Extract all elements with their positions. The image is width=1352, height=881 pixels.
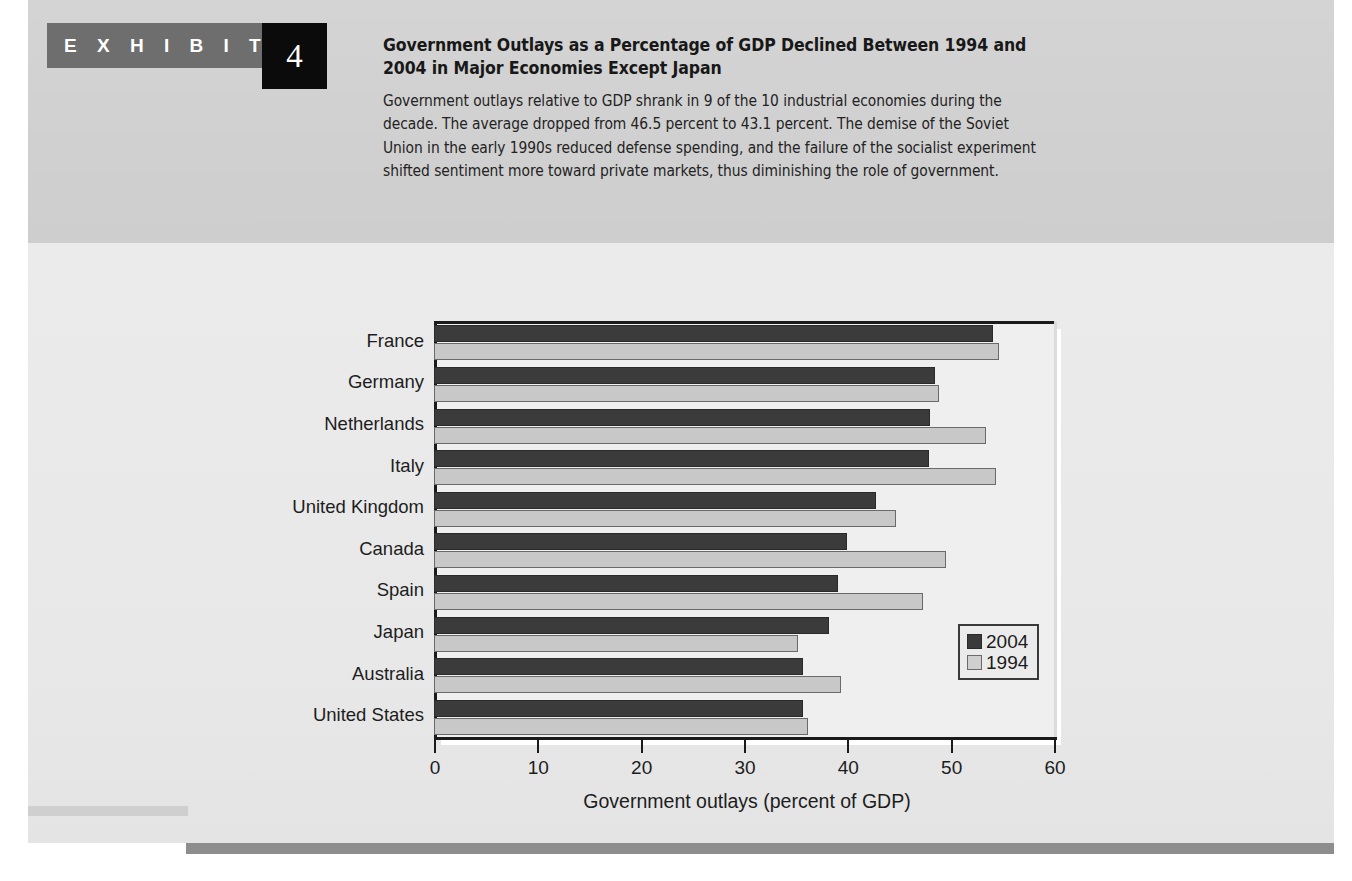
category-label-australia: Australia xyxy=(352,663,424,685)
exhibit-ribbon: E X H I B I T xyxy=(47,23,262,68)
footer-bar xyxy=(186,843,1334,854)
legend-swatch-2004-icon xyxy=(967,634,982,649)
plot-top-border xyxy=(434,321,1054,324)
bar-japan-2004 xyxy=(434,617,829,634)
x-tick-mark-0 xyxy=(434,740,436,753)
category-label-italy: Italy xyxy=(390,455,424,477)
bar-germany-1994 xyxy=(434,385,939,402)
exhibit-label: E X H I B I T xyxy=(47,35,268,57)
x-tick-label-20: 20 xyxy=(631,757,652,779)
category-label-united-kingdom: United Kingdom xyxy=(292,496,424,518)
bar-canada-1994 xyxy=(434,551,946,568)
header-text-block: Government Outlays as a Percentage of GD… xyxy=(383,34,1043,184)
bar-netherlands-2004 xyxy=(434,409,930,426)
bar-united-states-2004 xyxy=(434,700,803,717)
x-tick-mark-30 xyxy=(744,740,746,753)
bar-france-1994 xyxy=(434,343,999,360)
x-tick-label-0: 0 xyxy=(430,757,441,779)
legend-label-1994: 1994 xyxy=(986,653,1028,672)
exhibit-title: Government Outlays as a Percentage of GD… xyxy=(383,34,1043,81)
category-label-united-states: United States xyxy=(313,704,424,726)
bar-australia-2004 xyxy=(434,658,803,675)
x-tick-mark-50 xyxy=(951,740,953,753)
bar-netherlands-1994 xyxy=(434,427,986,444)
bar-united-kingdom-1994 xyxy=(434,510,896,527)
bar-italy-1994 xyxy=(434,468,996,485)
bar-spain-1994 xyxy=(434,593,923,610)
legend-swatch-1994-icon xyxy=(967,655,982,670)
bar-japan-1994 xyxy=(434,635,798,652)
x-tick-label-50: 50 xyxy=(941,757,962,779)
category-label-canada: Canada xyxy=(359,538,424,560)
legend-item-2004: 2004 xyxy=(967,631,1028,652)
legend-label-2004: 2004 xyxy=(986,632,1028,651)
bar-canada-2004 xyxy=(434,533,847,550)
exhibit-description: Government outlays relative to GDP shran… xyxy=(383,90,1043,184)
bar-australia-1994 xyxy=(434,676,841,693)
x-axis-title: Government outlays (percent of GDP) xyxy=(434,790,1060,813)
bar-germany-2004 xyxy=(434,367,935,384)
bar-spain-2004 xyxy=(434,575,838,592)
plot-right-edge xyxy=(1054,321,1057,740)
x-tick-mark-60 xyxy=(1054,740,1056,753)
chart-paper: FranceGermanyNetherlandsItalyUnited King… xyxy=(28,243,1334,843)
category-label-spain: Spain xyxy=(377,579,424,601)
x-tick-label-30: 30 xyxy=(734,757,755,779)
bar-france-2004 xyxy=(434,325,993,342)
x-tick-mark-40 xyxy=(847,740,849,753)
legend-item-1994: 1994 xyxy=(967,652,1028,673)
x-tick-label-60: 60 xyxy=(1044,757,1065,779)
bar-united-states-1994 xyxy=(434,718,808,735)
category-label-netherlands: Netherlands xyxy=(324,413,424,435)
bar-united-kingdom-2004 xyxy=(434,492,876,509)
category-label-japan: Japan xyxy=(374,621,424,643)
bar-chart: FranceGermanyNetherlandsItalyUnited King… xyxy=(28,243,1334,843)
x-tick-mark-20 xyxy=(641,740,643,753)
category-label-germany: Germany xyxy=(348,371,424,393)
page-bottom-shade xyxy=(28,806,188,816)
exhibit-number: 4 xyxy=(286,38,303,75)
category-label-france: France xyxy=(366,330,424,352)
x-tick-label-40: 40 xyxy=(838,757,859,779)
x-tick-label-10: 10 xyxy=(528,757,549,779)
bar-italy-2004 xyxy=(434,450,929,467)
footer-bar-gap xyxy=(28,843,186,854)
exhibit-page: E X H I B I T 4 Government Outlays as a … xyxy=(0,0,1352,881)
category-axis-labels: FranceGermanyNetherlandsItalyUnited King… xyxy=(148,321,424,737)
x-tick-mark-10 xyxy=(537,740,539,753)
chart-legend: 2004 1994 xyxy=(958,624,1039,680)
exhibit-number-box: 4 xyxy=(262,23,327,89)
